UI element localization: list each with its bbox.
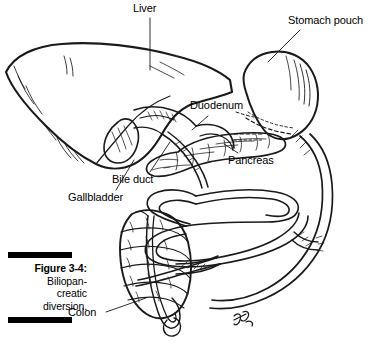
label-liver: Liver [133,2,156,14]
leader-stomach [268,30,300,62]
label-gallbladder: Gallbladder [68,191,123,203]
liver-hilum [134,107,196,126]
small-intestine-loops [136,190,308,286]
figure-caption-line-1: Biliopan- [4,275,87,288]
artist-signature [234,311,253,326]
figure-caption-block: Figure 3-4: Biliopan- creatic diversion. [4,252,90,323]
label-stomach-pouch: Stomach pouch [288,14,363,26]
label-pancreas: Pancreas [228,154,274,166]
label-duodenum: Duodenum [190,99,243,111]
figure-number: Figure 3-4: [4,262,87,275]
figure-container: Liver Stomach pouch Duodenum Pancreas Bi… [0,0,370,343]
gallbladder-organ [104,119,162,163]
figure-caption-text: Figure 3-4: Biliopan- creatic diversion. [4,258,90,312]
figure-caption-line-3: diversion. [4,300,87,313]
label-bile-duct: Bile duct [112,173,153,185]
duodenum-organ [196,125,262,150]
stomach-pouch-organ [236,52,318,140]
figure-caption-line-2: creatic [4,287,87,300]
leader-duodenum [192,116,208,130]
caption-rule-bottom [8,317,72,323]
